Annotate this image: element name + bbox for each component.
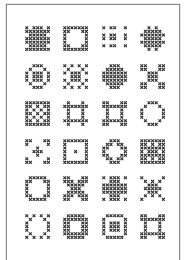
cross-stitch-icon	[63, 139, 88, 164]
motif-star-burst	[134, 170, 173, 208]
cross-stitch-icon	[140, 176, 165, 201]
cross-stitch-icon	[25, 176, 50, 201]
motif-dense-square	[134, 133, 173, 171]
cross-stitch-icon	[63, 214, 88, 239]
motif-checkered-square	[18, 95, 57, 133]
cross-stitch-icon	[25, 64, 50, 89]
cross-stitch-icon	[140, 214, 165, 239]
cross-stitch-icon	[140, 139, 165, 164]
motif-octagon-outline	[95, 133, 134, 171]
motif-ring-with-center	[18, 58, 57, 96]
cross-stitch-icon	[25, 26, 50, 51]
cross-stitch-icon	[102, 139, 127, 164]
motif-hash-square	[57, 95, 96, 133]
motif-lattice-diamond	[57, 58, 96, 96]
motif-corner-box	[134, 208, 173, 246]
motif-framed-center	[57, 133, 96, 171]
motif-corner-brackets	[18, 133, 57, 171]
cross-stitch-icon	[63, 101, 88, 126]
cross-stitch-icon	[102, 176, 127, 201]
motif-five-squares	[134, 58, 173, 96]
motif-dotted-ring	[18, 208, 57, 246]
motif-nine-dot-grid	[95, 20, 134, 58]
cross-stitch-icon	[25, 139, 50, 164]
motif-cornered-ring	[95, 95, 134, 133]
motif-square-frame-round-hole	[57, 20, 96, 58]
cross-stitch-icon	[102, 64, 127, 89]
motif-diagonal-cross-block	[18, 20, 57, 58]
cross-stitch-icon	[63, 64, 88, 89]
cross-stitch-icon	[102, 214, 127, 239]
cross-stitch-icon	[140, 26, 165, 51]
cross-stitch-icon	[25, 101, 50, 126]
cross-stitch-icon	[25, 214, 50, 239]
motif-plus-shape	[95, 170, 134, 208]
cross-stitch-icon	[140, 64, 165, 89]
cross-stitch-icon	[102, 26, 127, 51]
cross-stitch-icon	[140, 101, 165, 126]
cross-stitch-icon	[63, 26, 88, 51]
motif-grid	[18, 20, 172, 245]
motif-x-shape	[57, 170, 96, 208]
cross-stitch-icon	[102, 101, 127, 126]
motif-octagon-ring	[134, 95, 173, 133]
motif-cross-star-block	[134, 20, 173, 58]
cross-stitch-icon	[63, 176, 88, 201]
motif-solid-diamond	[95, 58, 134, 96]
motif-thick-ring	[57, 208, 96, 246]
motif-nested-square	[95, 208, 134, 246]
motif-round-frame	[18, 170, 57, 208]
